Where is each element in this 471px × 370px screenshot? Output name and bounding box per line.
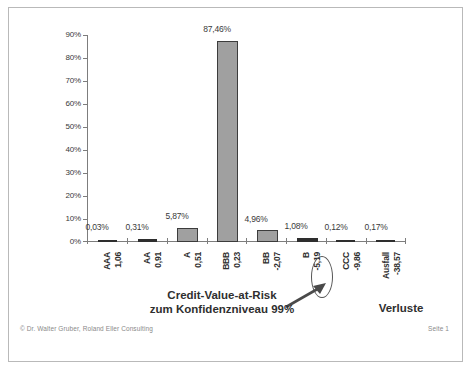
x-axis-right-label: Verluste xyxy=(368,302,434,315)
bar-AAA[interactable] xyxy=(98,240,117,242)
chart-caption-line2: zum Konfidenzniveau 99% xyxy=(118,302,326,316)
x-category-label: AAA xyxy=(103,252,112,304)
footer-copyright: © Dr. Walter Gruber, Roland Eller Consul… xyxy=(20,325,153,332)
bars-layer xyxy=(87,35,406,242)
bar-value-label-A: 5,87% xyxy=(162,212,192,221)
y-tick-label: 70% xyxy=(47,77,81,85)
y-tick-label: 80% xyxy=(47,54,81,62)
bar-value-label-Ausfall: 0,17% xyxy=(361,223,391,232)
chart-caption-line1: Credit-Value-at-Risk xyxy=(118,288,326,302)
bar-chart: 90% 80% 70% 60% 50% 40% 30% 20% 10% 0% xyxy=(0,0,471,370)
x-category-label: CCC xyxy=(342,252,351,304)
y-tick-label: 10% xyxy=(47,215,81,223)
bar-BB[interactable] xyxy=(257,230,278,242)
y-tick-label: 30% xyxy=(47,169,81,177)
bar-B[interactable] xyxy=(297,238,318,242)
y-tick-label: 20% xyxy=(47,192,81,200)
bar-value-label-BBB: 87,46% xyxy=(199,25,235,34)
bar-value-label-B: 1,08% xyxy=(281,222,311,231)
chart-caption: Credit-Value-at-Risk zum Konfidenzniveau… xyxy=(118,288,326,316)
x-category-value: -38,57 xyxy=(393,252,402,304)
bar-CCC[interactable] xyxy=(336,240,355,242)
bar-value-label-BB: 4,96% xyxy=(241,215,271,224)
footer-page-number: Seite 1 xyxy=(428,325,449,332)
x-category-value: -9,86 xyxy=(353,252,362,304)
bar-value-label-CCC: 0,12% xyxy=(321,223,351,232)
slide-canvas: 90% 80% 70% 60% 50% 40% 30% 20% 10% 0% xyxy=(0,0,471,370)
bar-value-label-AAA: 0,03% xyxy=(82,223,112,232)
y-tick-label: 40% xyxy=(47,146,81,154)
bar-Ausfall[interactable] xyxy=(376,240,395,242)
x-category-label: Ausfall xyxy=(382,252,391,304)
bar-A[interactable] xyxy=(177,228,198,242)
y-tick-label: 90% xyxy=(47,31,81,39)
y-tick-label: 60% xyxy=(47,100,81,108)
bar-AA[interactable] xyxy=(138,239,157,242)
bar-BBB[interactable] xyxy=(217,41,238,242)
y-tick-label: 0% xyxy=(47,238,81,246)
y-tick-label: 50% xyxy=(47,123,81,131)
bar-value-label-AA: 0,31% xyxy=(122,223,152,232)
